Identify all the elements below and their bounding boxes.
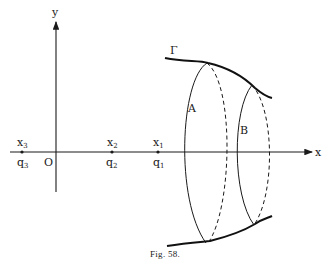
surface-b-label: B [240,124,248,137]
point-x3: x3 q3 [17,136,29,170]
svg-text:q3: q3 [17,156,29,170]
point-x2: x2 q2 [106,136,118,170]
figure-canvas: y x O x3 q3 x2 q2 x1 q1 Γ A B Fig [0,0,332,266]
gamma-curve: Γ [165,44,272,246]
svg-text:x2: x2 [107,136,118,150]
point-x1: x1 q1 [153,136,165,170]
svg-text:x3: x3 [17,136,28,150]
gamma-label: Γ [170,44,178,57]
x-axis: x [10,146,322,159]
svg-text:q1: q1 [153,156,165,170]
origin-label: O [44,156,53,169]
svg-text:x1: x1 [153,136,164,150]
y-axis-label: y [51,6,59,19]
surface-b: B [237,85,269,225]
svg-text:q2: q2 [106,156,118,170]
surface-a: A [185,63,227,243]
figure-caption: Fig. 58. [150,249,180,259]
x-axis-label: x [315,146,322,159]
surface-a-label: A [187,102,197,115]
